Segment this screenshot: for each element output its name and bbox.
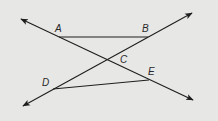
- geometry-diagram: A B C D E: [0, 0, 218, 121]
- point-label-B: B: [142, 23, 149, 34]
- point-label-C: C: [120, 54, 128, 65]
- point-label-E: E: [148, 66, 155, 77]
- point-label-A: A: [54, 23, 62, 34]
- point-label-D: D: [42, 77, 49, 88]
- diagram-canvas: A B C D E: [0, 0, 218, 121]
- line-through-D-C-B: [23, 13, 192, 106]
